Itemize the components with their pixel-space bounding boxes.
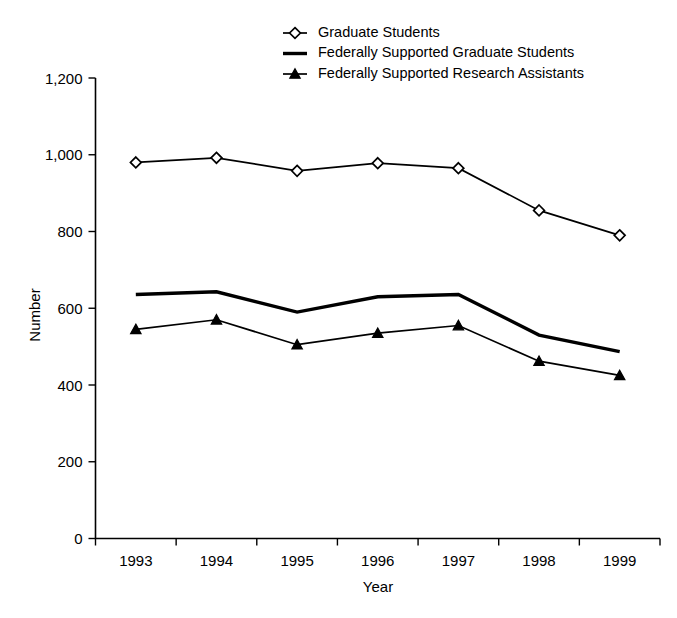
x-tick-label: 1994 xyxy=(200,552,233,569)
y-tick-label: 600 xyxy=(57,300,82,317)
x-tick-label: 1997 xyxy=(442,552,475,569)
legend-label: Federally Supported Graduate Students xyxy=(318,44,574,60)
data-point-marker xyxy=(372,158,383,169)
data-point-marker xyxy=(292,165,303,176)
y-tick-label: 800 xyxy=(57,223,82,240)
x-tick-label: 1996 xyxy=(361,552,394,569)
legend-item-1: Graduate Students xyxy=(283,24,440,40)
y-tick-label: 400 xyxy=(57,377,82,394)
x-tick-label: 1998 xyxy=(522,552,555,569)
legend-item-3: Federally Supported Research Assistants xyxy=(283,65,584,81)
series-line xyxy=(136,292,620,352)
data-point-marker xyxy=(534,205,545,216)
legend-swatch-marker xyxy=(290,28,301,39)
y-axis-title: Number xyxy=(26,288,43,341)
chart-figure: Graduate StudentsFederally Supported Gra… xyxy=(0,0,677,618)
data-point-marker xyxy=(211,152,222,163)
x-axis-ticks: 1993199419951996199719981999 xyxy=(96,539,661,569)
series-1 xyxy=(130,152,625,240)
y-tick-label: 1,000 xyxy=(45,146,83,163)
x-tick-label: 1995 xyxy=(280,552,313,569)
legend-item-2: Federally Supported Graduate Students xyxy=(283,44,574,60)
chart-legend: Graduate StudentsFederally Supported Gra… xyxy=(283,24,584,81)
data-point-marker xyxy=(211,315,221,324)
chart-axes xyxy=(96,78,661,539)
x-axis-title: Year xyxy=(363,578,393,595)
y-axis-ticks: 02004006008001,0001,200 xyxy=(45,70,96,548)
series-3 xyxy=(131,315,625,380)
data-point-marker xyxy=(534,356,544,365)
x-tick-label: 1999 xyxy=(603,552,636,569)
legend-label: Graduate Students xyxy=(318,24,440,40)
data-point-marker xyxy=(453,163,464,174)
axis-lines xyxy=(96,78,661,539)
y-tick-label: 200 xyxy=(57,453,82,470)
series-2 xyxy=(136,292,620,352)
y-tick-label: 0 xyxy=(74,530,82,547)
legend-label: Federally Supported Research Assistants xyxy=(318,65,584,81)
y-tick-label: 1,200 xyxy=(45,70,83,87)
x-tick-label: 1993 xyxy=(119,552,152,569)
data-point-marker xyxy=(614,230,625,241)
line-chart-canvas: Graduate StudentsFederally Supported Gra… xyxy=(0,0,677,618)
data-point-marker xyxy=(130,157,141,168)
chart-series xyxy=(130,152,625,379)
